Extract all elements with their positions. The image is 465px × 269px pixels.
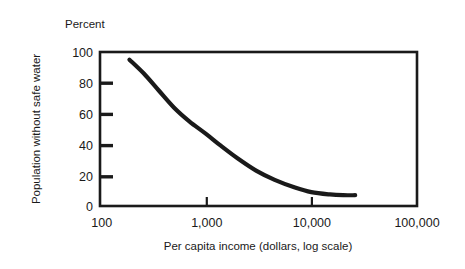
y-tick-label-40: 40 [79, 139, 93, 153]
y-tick-label-0: 0 [86, 200, 93, 214]
y-tick-label-60: 60 [79, 108, 93, 122]
x-axis-ticks [207, 197, 312, 206]
figure-container: Percent Population without safe water Pe… [0, 0, 465, 269]
y-axis-title: Population without safe water [30, 54, 42, 204]
x-tick-label-100: 100 [91, 216, 112, 230]
chart-canvas: Percent Population without safe water Pe… [0, 0, 465, 269]
x-tick-label-1000: 1,000 [191, 216, 222, 230]
y-axis-ticks [100, 83, 113, 177]
y-tick-label-80: 80 [79, 77, 93, 91]
series-line-population-without-safe-water [129, 60, 355, 196]
x-tick-label-100000: 100,000 [394, 216, 439, 230]
y-tick-label-100: 100 [72, 46, 93, 60]
y-axis-unit-label: Percent [65, 18, 105, 30]
y-axis-tick-labels: 100 80 60 40 20 0 [72, 46, 93, 214]
x-axis-tick-labels: 100 1,000 10,000 100,000 [91, 216, 439, 230]
data-series-group [129, 60, 355, 196]
x-axis-title: Per capita income (dollars, log scale) [164, 240, 353, 252]
y-tick-label-20: 20 [79, 170, 93, 184]
x-tick-label-10000: 10,000 [293, 216, 331, 230]
